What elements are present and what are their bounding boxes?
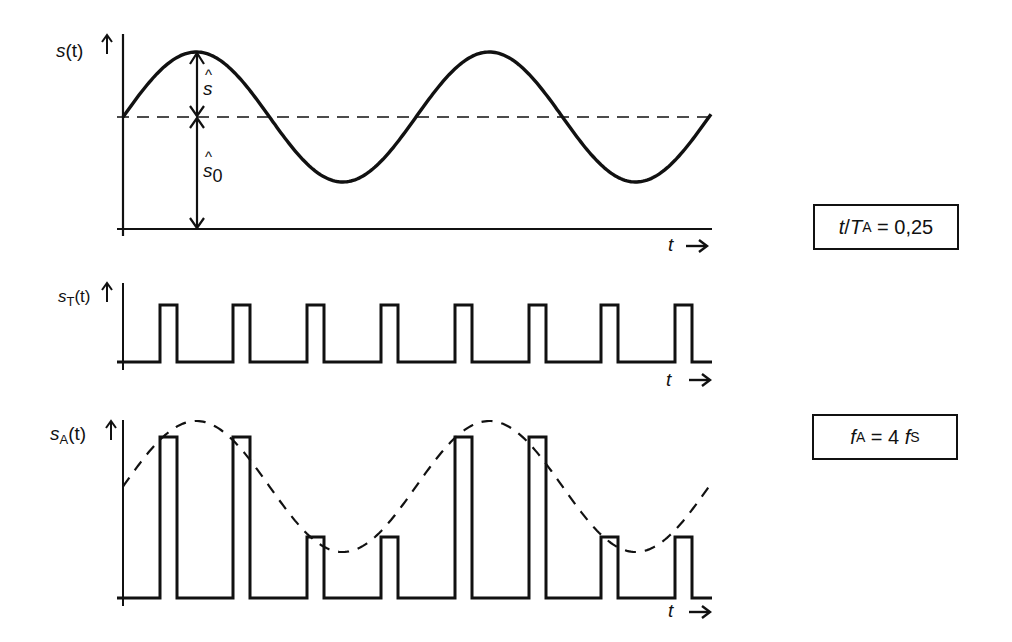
sampling-pulse-train — [117, 305, 712, 362]
top-x-label: t — [668, 234, 673, 256]
sampled-pulse-train — [117, 437, 712, 598]
frequency-box: fA = 4 fS — [812, 414, 958, 460]
sampled-envelope-dashed-curve — [123, 421, 711, 552]
offset-label: ^s0 — [203, 160, 223, 182]
bottom-y-label: sA(t) — [50, 423, 86, 447]
middle-x-label: t — [666, 369, 671, 391]
amplitude-label: ^ŝs — [203, 78, 213, 100]
bottom-x-label: t — [668, 600, 673, 622]
top-y-label: s(t) — [56, 40, 83, 62]
ratio-box: t / TA = 0,25 — [813, 204, 959, 250]
middle-y-label: sT(t) — [58, 287, 91, 309]
diagram-canvas — [0, 0, 1012, 642]
